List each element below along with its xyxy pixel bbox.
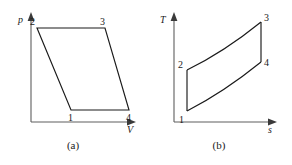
- cycle-path-a: [37, 28, 129, 110]
- state-point-label-b-3: 3: [264, 12, 269, 23]
- state-point-label-a-4: 4: [126, 112, 131, 123]
- y-axis-label-a: p: [17, 14, 23, 25]
- y-axis-label-b: T: [160, 14, 167, 25]
- state-point-label-b-4: 4: [264, 57, 269, 68]
- x-axis-label-a: V: [127, 124, 135, 135]
- diagram-panel-a: p V 2 3 1 4 (a): [0, 0, 146, 165]
- process-path-b-4-1: [187, 62, 261, 111]
- process-path-b-2-3: [187, 22, 261, 70]
- x-axis-label-b: s: [268, 124, 272, 135]
- state-point-label-b-1: 1: [179, 114, 184, 125]
- panel-caption-a: (a): [0, 139, 146, 151]
- panel-caption-b: (b): [146, 139, 292, 151]
- figure-container: p V 2 3 1 4 (a) T: [0, 0, 292, 165]
- y-axis-arrow-b: [171, 12, 178, 21]
- state-point-label-a-3: 3: [100, 16, 105, 27]
- state-point-label-a-1: 1: [68, 112, 73, 123]
- state-point-label-a-2: 2: [30, 16, 35, 27]
- diagram-panel-b: T s 1 2 3 4 (b): [146, 0, 292, 165]
- state-point-label-b-2: 2: [178, 59, 183, 70]
